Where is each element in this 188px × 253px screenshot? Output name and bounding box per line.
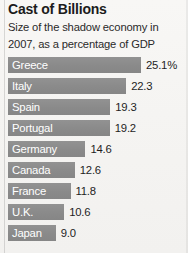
bar-category-label: U.K. [12,204,33,220]
bar-value-label: 25.1% [146,57,177,73]
chart-subtitle: Size of the shadow economy in 2007, as a… [8,19,184,52]
bar-category-label: Portugal [12,120,52,136]
bar-row: Germany14.6 [0,141,188,162]
bar-category-label: Spain [12,99,40,115]
bar-row: Spain19.3 [0,99,188,120]
bar-row: Greece25.1% [0,57,188,78]
bar-category-label: Japan [12,225,42,241]
chart-figure: Cast of Billions Size of the shadow econ… [0,0,188,253]
bar-category-label: Italy [12,78,32,94]
bar-list: Greece25.1%Italy22.3Spain19.3Portugal19.… [0,57,188,246]
bar-row: U.K.10.6 [0,204,188,225]
bar-value-label: 11.8 [76,183,96,199]
bar-value-label: 22.3 [131,78,152,94]
bar-row: Italy22.3 [0,78,188,99]
bar-category-label: Greece [12,57,48,73]
bar-value-label: 19.2 [115,120,136,136]
bar-value-label: 12.6 [80,162,101,178]
bar-row: Portugal19.2 [0,120,188,141]
bar-value-label: 9.0 [61,225,76,241]
bar-value-label: 19.3 [115,99,136,115]
bar-category-label: France [12,183,46,199]
bar-row: Canada12.6 [0,162,188,183]
bar-value-label: 10.6 [69,204,90,220]
bar-row: France11.8 [0,183,188,204]
bar-row: Japan9.0 [0,225,188,246]
chart-title: Cast of Billions [8,1,107,18]
bar-category-label: Germany [12,141,57,157]
bar-category-label: Canada [12,162,50,178]
bar-value-label: 14.6 [90,141,111,157]
